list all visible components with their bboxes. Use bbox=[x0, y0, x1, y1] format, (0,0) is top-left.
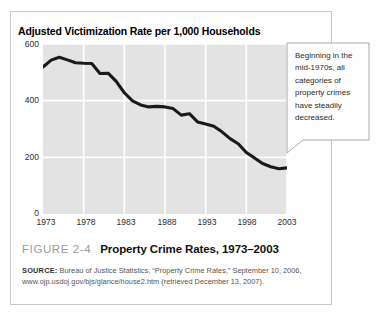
source-label: SOURCE: bbox=[22, 266, 57, 275]
x-tick-label: 1973 bbox=[37, 217, 56, 227]
chart-svg bbox=[43, 44, 287, 214]
x-tick-label: 1978 bbox=[77, 217, 96, 227]
x-tick-label: 1983 bbox=[117, 217, 136, 227]
x-tick-label: 1998 bbox=[238, 217, 257, 227]
figure-number: FIGURE 2-4 bbox=[22, 243, 91, 255]
chart-plot-area bbox=[43, 44, 287, 214]
callout-text: Beginning in the mid-1970s, all categori… bbox=[295, 50, 361, 124]
callout-annotation: Beginning in the mid-1970s, all categori… bbox=[286, 42, 370, 154]
figure-root: Adjusted Victimization Rate per 1,000 Ho… bbox=[0, 0, 378, 321]
chart-title: Adjusted Victimization Rate per 1,000 Ho… bbox=[18, 25, 260, 37]
vertical-gridlines bbox=[84, 44, 287, 214]
y-tick-label: 200 bbox=[25, 153, 39, 162]
x-tick-label: 2003 bbox=[278, 217, 297, 227]
horizontal-gridlines bbox=[43, 44, 287, 157]
figure-title: Property Crime Rates, 1973–2003 bbox=[100, 243, 278, 255]
source-text: Bureau of Justice Statistics, “Property … bbox=[22, 266, 301, 286]
series-line-property-crime-rate bbox=[43, 57, 287, 168]
x-tick-label: 1988 bbox=[158, 217, 177, 227]
figure-caption-row: FIGURE 2-4 Property Crime Rates, 1973–20… bbox=[22, 243, 322, 261]
y-tick-label: 400 bbox=[25, 96, 39, 105]
x-tick-label: 1993 bbox=[198, 217, 217, 227]
figure-source: SOURCE: Bureau of Justice Statistics, “P… bbox=[22, 266, 312, 287]
y-tick-label: 600 bbox=[25, 40, 39, 49]
x-axis-ticks: 1973 1978 1983 1988 1993 1998 2003 bbox=[0, 217, 378, 231]
